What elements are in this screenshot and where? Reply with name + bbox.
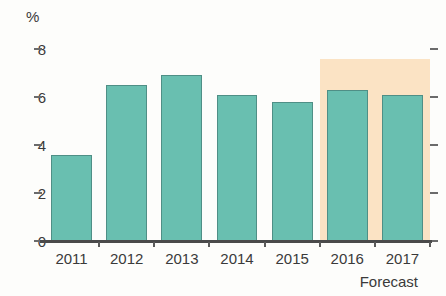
y-axis-tick-mark-2 [34, 192, 42, 194]
y-axis-tick-mark-right-2 [430, 192, 438, 194]
x-axis-label-2016: 2016 [331, 250, 364, 267]
bar-chart: % 86420 2011201220132014201520162017 For… [0, 0, 446, 296]
y-axis-tick-mark-8 [34, 48, 42, 50]
y-axis-unit-label: % [26, 8, 39, 25]
y-axis-tick-mark-right-8 [430, 48, 438, 50]
x-axis-tick-mark-2013 [208, 242, 210, 247]
x-axis-tick-mark-2017 [429, 242, 431, 247]
x-axis-tick-mark-2011 [98, 242, 100, 247]
x-axis-label-2011: 2011 [55, 250, 87, 267]
y-axis-tick-mark-right-6 [430, 96, 438, 98]
bar-2012 [106, 85, 147, 241]
forecast-caption: Forecast [360, 273, 418, 290]
x-axis-tick-mark-2016 [374, 242, 376, 247]
x-axis-label-2013: 2013 [165, 250, 198, 267]
bar-2014 [217, 95, 258, 241]
y-axis-tick-mark-6 [34, 96, 42, 98]
x-axis-tick-mark-2014 [264, 242, 266, 247]
x-axis-tick-mark-2012 [153, 242, 155, 247]
x-axis-label-2015: 2015 [275, 250, 308, 267]
x-axis-label-2017: 2017 [386, 250, 419, 267]
bar-2017 [382, 95, 423, 241]
bar-2011 [51, 155, 92, 241]
x-axis-label-2014: 2014 [220, 250, 253, 267]
x-axis-label-2012: 2012 [110, 250, 143, 267]
bar-2013 [161, 75, 202, 241]
bar-2016 [327, 90, 368, 241]
x-axis-tick-mark-2015 [319, 242, 321, 247]
y-axis-tick-mark-4 [34, 144, 42, 146]
bar-2015 [272, 102, 313, 241]
y-axis-tick-mark-right-4 [430, 144, 438, 146]
